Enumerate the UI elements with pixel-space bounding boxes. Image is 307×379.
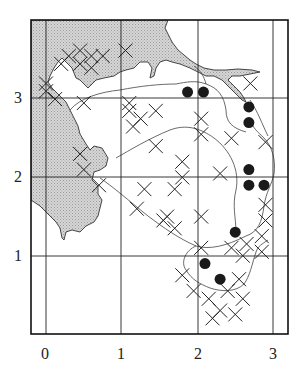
cross-icon (194, 112, 208, 126)
dot-icon (243, 164, 254, 175)
cross-icon (168, 182, 182, 196)
cross-icon (224, 131, 238, 145)
dot-icon (243, 117, 254, 128)
dot-icon (199, 258, 210, 269)
cross-icon (213, 166, 227, 180)
y-tick-2: 2 (14, 169, 22, 185)
cross-icon (240, 237, 254, 251)
cross-icon (175, 155, 189, 169)
cross-icon (232, 272, 246, 286)
x-tick-3: 3 (269, 346, 277, 362)
cross-icon (130, 202, 144, 216)
x-tick-1: 1 (117, 346, 125, 362)
cross-icon (194, 241, 208, 255)
dot-icon (182, 87, 193, 98)
dot-icon (243, 101, 254, 112)
x-tick-0: 0 (41, 346, 49, 362)
cross-icon (194, 127, 208, 141)
cross-icon (224, 241, 238, 255)
y-tick-3: 3 (14, 90, 22, 106)
dot-icon (215, 274, 226, 285)
cross-icon (187, 284, 201, 298)
dot-icon (198, 87, 209, 98)
cross-icon (194, 210, 208, 224)
cross-icon (259, 135, 273, 149)
cross-icon (228, 307, 242, 321)
cross-icon (168, 221, 182, 235)
dot-markers (182, 87, 269, 285)
cross-icon (126, 120, 140, 134)
cross-icon (255, 245, 269, 259)
cross-icon (255, 229, 269, 243)
dot-icon (243, 180, 254, 191)
cross-icon (156, 213, 170, 227)
cross-icon (175, 268, 189, 282)
cross-icon (243, 76, 257, 90)
dot-icon (259, 180, 270, 191)
dot-icon (230, 227, 241, 238)
cross-icon (236, 292, 250, 306)
grid (31, 20, 288, 334)
cross-icon (149, 139, 163, 153)
distribution-map (0, 0, 307, 379)
y-tick-1: 1 (14, 248, 22, 264)
cross-icon (206, 311, 220, 325)
cross-icon (137, 182, 151, 196)
cross-icon (122, 104, 136, 118)
x-tick-2: 2 (194, 346, 202, 362)
cross-icon (149, 104, 163, 118)
